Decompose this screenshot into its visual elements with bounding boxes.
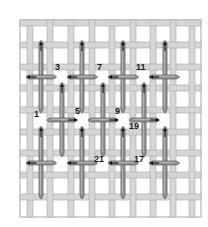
stitch-number-label: 1 [34, 110, 39, 119]
canvas-weave-over [150, 194, 157, 200]
canvas-weave-over [170, 85, 177, 91]
canvas-weave-over [27, 20, 34, 26]
canvas-weave-over [27, 194, 34, 200]
canvas-grid-svg [0, 0, 208, 227]
canvas-weave-over [170, 172, 177, 178]
canvas-weave-over [189, 20, 196, 26]
canvas-weave-over [68, 150, 75, 156]
canvas-weave-over [130, 85, 137, 91]
stitch-number-label: 9 [115, 107, 120, 116]
horizontal-stitch [88, 118, 119, 122]
stitch-diagram: 3711159192117 [0, 0, 208, 227]
canvas-weave-over [150, 150, 157, 156]
canvas-weave-over [150, 20, 157, 26]
canvas-weave-over [27, 150, 34, 156]
canvas-weave-over [47, 85, 54, 91]
canvas-weave-over [89, 85, 96, 91]
canvas-weave-over [189, 64, 196, 70]
canvas-weave-over [189, 150, 196, 156]
canvas-weave-over [27, 107, 34, 113]
stitch-number-label: 7 [97, 63, 102, 72]
canvas-weave-over [89, 129, 96, 135]
canvas-weave-over [47, 172, 54, 178]
horizontal-stitch [26, 75, 57, 79]
horizontal-stitch [149, 75, 180, 79]
canvas-weave-over [68, 20, 75, 26]
horizontal-stitch [149, 161, 180, 165]
stitch-number-label: 17 [134, 155, 144, 164]
canvas-weave-over [68, 64, 75, 70]
canvas-weave-over [150, 107, 157, 113]
canvas-weave-over [68, 194, 75, 200]
canvas-weave-over [109, 64, 116, 70]
canvas-weave-over [109, 194, 116, 200]
canvas-weave-over [89, 172, 96, 178]
stitch-number-label: 5 [75, 107, 80, 116]
canvas-weave-over [47, 129, 54, 135]
canvas-weave-over [130, 42, 137, 48]
canvas-weave-over [47, 42, 54, 48]
canvas-weave-over [189, 107, 196, 113]
canvas-weave-over [68, 107, 75, 113]
canvas-weave-over [109, 20, 116, 26]
canvas-weave-over [170, 129, 177, 135]
canvas-weave-over [189, 194, 196, 200]
stitch-number-label: 21 [94, 155, 104, 164]
horizontal-stitch [67, 161, 98, 165]
canvas-weave-over [109, 150, 116, 156]
canvas-weave-over [89, 42, 96, 48]
horizontal-stitch [26, 161, 57, 165]
canvas-thread-vertical [189, 20, 195, 217]
horizontal-stitch [47, 118, 78, 122]
horizontal-stitch [108, 75, 139, 79]
stitch-number-label: 3 [55, 63, 60, 72]
canvas-weave-over [130, 172, 137, 178]
stitch-number-label: 11 [136, 63, 146, 72]
canvas-weave-over [27, 64, 34, 70]
horizontal-stitch [67, 75, 98, 79]
canvas-thread-vertical [27, 20, 33, 217]
canvas-thread-vertical [170, 20, 176, 217]
canvas-weave-over [150, 64, 157, 70]
canvas-weave-over [170, 42, 177, 48]
stitch-number-label: 19 [129, 122, 139, 131]
